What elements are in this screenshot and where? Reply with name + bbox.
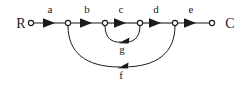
node-circle-n3[interactable] [137, 20, 142, 25]
node-circle-n1[interactable] [65, 20, 70, 25]
arrowhead-d-icon [149, 18, 161, 28]
arc-path-f-right [123, 26, 175, 67]
edge-label-g: g [119, 43, 125, 55]
edge-label-a: a [48, 3, 53, 15]
edge-label-e: e [189, 3, 194, 15]
edge-label-f: f [119, 69, 123, 81]
node-circle-n2[interactable] [102, 20, 107, 25]
arrowhead-a-icon [43, 18, 55, 28]
node-circle-n5[interactable] [209, 20, 214, 25]
terminal-label-start: R [16, 16, 26, 31]
arrowhead-f-icon [118, 63, 129, 69]
edge-label-c: c [119, 3, 124, 15]
arc-path-g-left [105, 26, 121, 43]
graph-canvas: R C a b c d e g f [0, 0, 249, 89]
node-circle-n4[interactable] [172, 20, 177, 25]
arc-path-f-left [68, 26, 120, 67]
edge-label-d: d [153, 3, 159, 15]
node-circle-n0[interactable] [28, 20, 33, 25]
arrowhead-b-icon [80, 18, 92, 28]
terminal-label-end: C [225, 16, 234, 31]
arrowhead-e-icon [184, 18, 196, 28]
edge-label-b: b [84, 3, 90, 15]
graph-diagram: R C a b c d e g f [0, 0, 249, 89]
arrowhead-c-icon [114, 18, 126, 28]
